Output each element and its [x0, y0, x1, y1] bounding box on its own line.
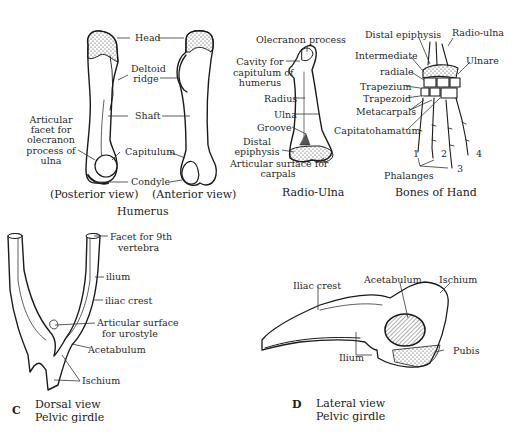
label-distal-epiphysis: Distal epiphysis [365, 29, 441, 40]
label-capitulum: Capitulum [125, 146, 175, 157]
label-ilium-lateral: Ilium [339, 352, 364, 363]
figure-letter-c: C [12, 404, 21, 417]
humerus-anterior-drawing [177, 31, 216, 186]
label-articular-facet-line5: ulna [26, 155, 76, 166]
label-iliac-crest: iliac crest [105, 295, 152, 306]
caption-lateral-view: Lateral view [316, 397, 385, 410]
pelvic-dorsal-drawing [8, 234, 100, 391]
label-condyle: Condyle [131, 176, 170, 187]
label-cavity-line3: humerus [233, 77, 287, 88]
label-digit-2: 2 [441, 148, 447, 159]
label-facet-9th-vertebra-line1: Facet for 9th [110, 231, 172, 242]
label-ischium: Ischium [82, 375, 120, 386]
humerus-posterior-drawing [86, 31, 118, 184]
label-digit-1: 1 [413, 148, 419, 159]
label-ischium-lateral: Ischium [439, 274, 477, 285]
label-trapezium: Trapezium [360, 81, 411, 92]
caption-pelvic-girdle-c: Pelvic girdle [35, 411, 104, 424]
label-shaft: Shaft [135, 110, 161, 121]
label-acetabulum: Acetabulum [88, 344, 146, 355]
label-ilium: ilium [106, 271, 130, 282]
label-iliac-crest-lateral: Iliac crest [293, 280, 341, 291]
label-capitatohamatum: Capitatohamatum [334, 125, 420, 136]
label-pubis: Pubis [453, 345, 480, 356]
label-articular-facet-line3: olecranon [26, 134, 76, 145]
label-olecranon-process: Olecranon process [256, 34, 346, 45]
label-facet-9th-vertebra-line2: vertebra [118, 242, 159, 253]
label-radiale: radiale [380, 66, 414, 77]
label-digit-3: 3 [457, 163, 463, 174]
label-radius: Radius [264, 93, 297, 104]
caption-anterior-view: (Anterior view) [152, 188, 236, 201]
label-head: Head [135, 32, 161, 43]
label-trapezoid: Trapezoid [363, 93, 411, 104]
label-radio-ulna: Radio-ulna [452, 27, 504, 38]
label-ulnare: Ulnare [466, 55, 499, 66]
label-articular-surface-urostyle-line2: for urostyle [102, 328, 158, 339]
label-ulna: Ulna [274, 109, 297, 120]
label-deltoid-ridge-line2: ridge [131, 73, 161, 84]
label-groove: Groove [257, 122, 292, 133]
figure-title-radio-ulna: Radio-Ulna [282, 186, 344, 199]
caption-posterior-view: (Posterior view) [50, 188, 139, 201]
label-digit-4: 4 [476, 148, 482, 159]
label-articular-surface-urostyle-line1: Articular surface [97, 317, 179, 328]
label-distal-epiphysis-line2: epiphysis [232, 146, 282, 157]
label-metacarpals: Metacarpals [356, 106, 416, 117]
caption-pelvic-girdle-d: Pelvic girdle [316, 410, 385, 423]
label-phalanges: Phalanges [384, 170, 434, 181]
label-cavity-line1: Cavity for [233, 56, 287, 67]
label-acetabulum-lateral: Acetabulum [364, 274, 422, 285]
figure-title-humerus: Humerus [117, 205, 169, 218]
label-articular-surface-line2: carpals [230, 168, 326, 179]
label-intermediate: Intermediate [355, 50, 418, 61]
caption-dorsal-view: Dorsal view [35, 398, 101, 411]
figure-letter-d: D [292, 398, 302, 411]
figure-title-bones-of-hand: Bones of Hand [395, 186, 477, 199]
